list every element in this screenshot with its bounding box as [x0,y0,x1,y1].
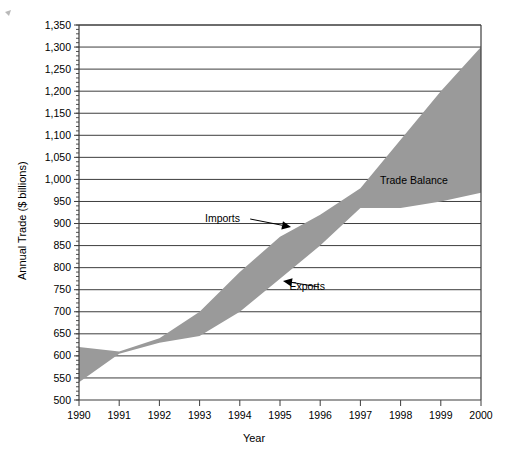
scan-speck [5,10,11,16]
x-tick-label: 1997 [349,409,373,421]
y-tick-label: 1,350 [45,19,71,31]
x-tick-label: 1998 [389,409,413,421]
y-axis-ticks: 5005506006507007508008509009501,0001,050… [45,19,79,406]
x-tick-label: 1991 [108,409,132,421]
x-tick-label: 1990 [67,409,91,421]
y-tick-label: 550 [53,372,71,384]
y-tick-label: 1,250 [45,63,71,75]
y-tick-label: 1,000 [45,173,71,185]
y-axis-title: Annual Trade ($ billions) [16,161,28,280]
chart-canvas: 5005506006507007508008509009501,0001,050… [0,0,508,451]
y-tick-label: 1,100 [45,129,71,141]
y-tick-label: 1,200 [45,85,71,97]
x-axis-ticks: 1990199119921993199419951996199719981999… [67,400,493,421]
annotation-label: Imports [205,212,240,224]
y-tick-label: 800 [53,261,71,273]
y-tick-label: 650 [53,327,71,339]
y-tick-label: 750 [53,283,71,295]
y-tick-label: 600 [53,349,71,361]
annotation-label: Trade Balance [380,174,448,186]
x-tick-label: 1992 [148,409,172,421]
y-tick-label: 950 [53,195,71,207]
x-tick-label: 2000 [469,409,493,421]
plot-area [79,25,481,400]
trade-chart: 5005506006507007508008509009501,0001,050… [0,0,508,451]
x-axis-title: Year [243,432,266,444]
x-tick-label: 1995 [268,409,292,421]
y-tick-label: 850 [53,239,71,251]
y-tick-label: 1,150 [45,107,71,119]
annotation-label: Exports [289,280,325,292]
x-tick-label: 1994 [228,409,252,421]
y-tick-label: 1,050 [45,151,71,163]
y-tick-label: 500 [53,394,71,406]
x-tick-label: 1996 [309,409,333,421]
y-tick-label: 700 [53,305,71,317]
y-tick-label: 900 [53,217,71,229]
x-tick-label: 1993 [188,409,212,421]
y-tick-label: 1,300 [45,41,71,53]
x-tick-label: 1999 [429,409,453,421]
